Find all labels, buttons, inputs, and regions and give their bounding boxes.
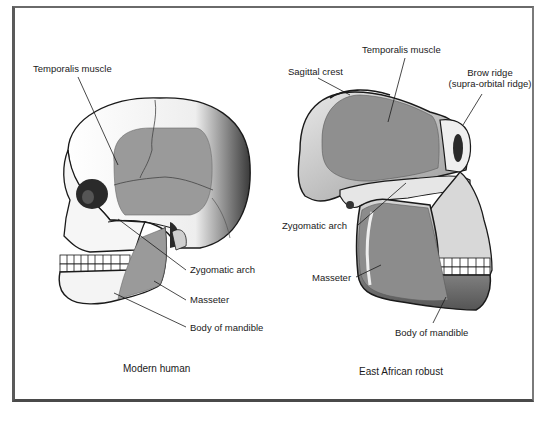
robust-teeth (436, 258, 490, 275)
label-temporalis-robust: Temporalis muscle (362, 44, 441, 55)
label-brow-ridge-line1: Brow ridge (435, 67, 545, 78)
label-sagittal-crest: Sagittal crest (288, 66, 343, 77)
caption-modern-human: Modern human (123, 363, 190, 374)
label-temporalis-human: Temporalis muscle (33, 63, 112, 74)
upper-teeth (60, 255, 130, 272)
label-zygomatic-robust: Zygomatic arch (282, 220, 347, 231)
label-masseter-robust: Masseter (312, 272, 351, 283)
label-mandible-robust: Body of mandible (395, 327, 468, 338)
caption-east-african-robust: East African robust (359, 366, 443, 377)
label-mandible-human: Body of mandible (190, 322, 263, 333)
label-brow-ridge-line2: (supra-orbital ridge) (435, 78, 545, 89)
label-brow-ridge: Brow ridge (supra-orbital ridge) (435, 67, 545, 89)
label-zygomatic-human: Zygomatic arch (190, 264, 255, 275)
label-masseter-human: Masseter (190, 294, 229, 305)
